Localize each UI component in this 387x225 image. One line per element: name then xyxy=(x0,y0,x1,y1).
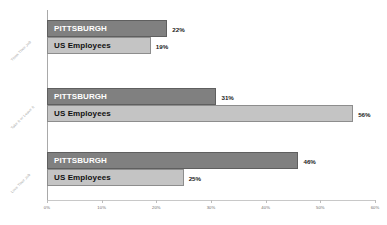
bar-group: PITTSBURGH31%US Employees56% xyxy=(47,88,375,122)
bar-us-employees[interactable]: US Employees xyxy=(47,37,151,54)
x-axis-tick xyxy=(102,200,103,203)
bar-series-label: US Employees xyxy=(48,41,111,50)
bar-series-label: PITTSBURGH xyxy=(48,24,107,33)
x-axis-tick xyxy=(375,200,376,203)
x-axis-tick-label: 10% xyxy=(97,205,106,210)
x-axis-tick xyxy=(320,200,321,203)
bar-us-employees[interactable]: US Employees xyxy=(47,169,184,186)
x-axis-tick-label: 60% xyxy=(371,205,380,210)
bar-row: US Employees19% xyxy=(47,37,375,54)
x-axis-tick xyxy=(47,200,48,203)
bar-value-label: 22% xyxy=(172,25,184,32)
bar-value-label: 46% xyxy=(303,157,315,164)
bar-value-label: 31% xyxy=(221,93,233,100)
bar-row: PITTSBURGH31% xyxy=(47,88,375,105)
x-axis-tick xyxy=(266,200,267,203)
x-axis-tick xyxy=(211,200,212,203)
bar-series-label: US Employees xyxy=(48,173,111,182)
bar-us-employees[interactable]: US Employees xyxy=(47,105,353,122)
bar-group: PITTSBURGH22%US Employees19% xyxy=(47,20,375,54)
bar-pittsburgh[interactable]: PITTSBURGH xyxy=(47,88,216,105)
x-axis-tick-label: 20% xyxy=(152,205,161,210)
bar-row: PITTSBURGH46% xyxy=(47,152,375,169)
bar-value-label: 19% xyxy=(156,42,168,49)
bar-series-label: PITTSBURGH xyxy=(48,92,107,101)
bar-pittsburgh[interactable]: PITTSBURGH xyxy=(47,152,298,169)
bar-series-label: US Employees xyxy=(48,109,111,118)
bar-value-label: 56% xyxy=(358,110,370,117)
category-label: Think Their Job xyxy=(10,40,32,62)
bar-pittsburgh[interactable]: PITTSBURGH xyxy=(47,20,167,37)
bar-row: US Employees56% xyxy=(47,105,375,122)
bar-series-label: PITTSBURGH xyxy=(48,156,107,165)
bar-value-label: 25% xyxy=(189,174,201,181)
x-axis-tick-label: 40% xyxy=(261,205,270,210)
x-axis-tick-label: 30% xyxy=(207,205,216,210)
bar-row: PITTSBURGH22% xyxy=(47,20,375,37)
bar-row: US Employees25% xyxy=(47,169,375,186)
x-axis-tick xyxy=(156,200,157,203)
bar-chart: 0%10%20%30%40%50%60% Think Their JobTake… xyxy=(0,0,387,225)
category-label: Take It or Leave It xyxy=(10,105,35,130)
x-axis-tick-label: 0% xyxy=(44,205,50,210)
category-label: Love Their Job xyxy=(10,173,31,194)
x-axis-tick-label: 50% xyxy=(316,205,325,210)
bar-group: PITTSBURGH46%US Employees25% xyxy=(47,152,375,186)
